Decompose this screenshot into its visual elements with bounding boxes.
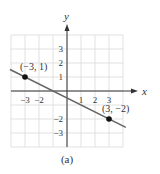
y-axis-arrow-icon bbox=[65, 24, 70, 31]
x-axis-label: x bbox=[141, 85, 147, 97]
y-tick-label: 3 bbox=[59, 44, 64, 54]
x-tick-label: −2 bbox=[34, 95, 44, 105]
data-point bbox=[22, 74, 28, 80]
x-axis-arrow-icon bbox=[131, 89, 138, 94]
data-point-label: (−3, 1) bbox=[20, 61, 47, 73]
axes: x y bbox=[11, 10, 147, 147]
coordinate-plane: x y −3−2123321−2−3 (−3, 1)(3, −2) (a) bbox=[0, 0, 160, 174]
data-point-label: (3, −2) bbox=[102, 103, 129, 115]
figure-caption: (a) bbox=[61, 153, 74, 166]
x-tick-label: −3 bbox=[20, 95, 30, 105]
coordinate-plane-figure: x y −3−2123321−2−3 (−3, 1)(3, −2) (a) bbox=[0, 0, 160, 174]
y-tick-label: 2 bbox=[59, 58, 64, 68]
data-point bbox=[106, 116, 112, 122]
y-axis-label: y bbox=[63, 10, 69, 22]
y-tick-label: −3 bbox=[53, 128, 63, 138]
y-tick-label: −2 bbox=[53, 114, 63, 124]
y-tick-label: 1 bbox=[59, 72, 64, 82]
x-tick-label: 2 bbox=[93, 95, 98, 105]
